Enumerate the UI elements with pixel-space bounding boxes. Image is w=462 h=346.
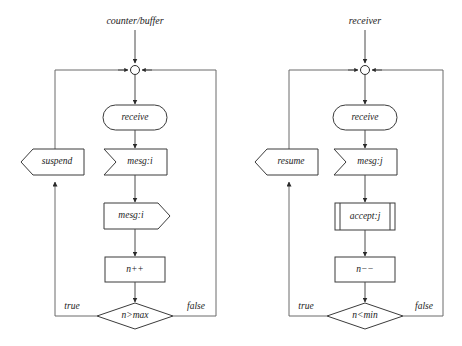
node-mesg-receive-right-label: mesg:j (357, 156, 383, 166)
edge-true-branch-right (289, 182, 327, 316)
node-mesg-send-left-label: mesg:i (118, 210, 144, 220)
edge-true-branch-left (55, 182, 97, 316)
lane-counter-buffer: counter/buffer receive mesg:i (21, 15, 216, 329)
lane-title-receiver: receiver (349, 15, 381, 26)
flowchart-canvas: counter/buffer receive mesg:i (0, 0, 462, 346)
node-suspend-left-label: suspend (42, 156, 73, 166)
flowchart-diagram: counter/buffer receive mesg:i (0, 0, 462, 346)
merge-junction-left (131, 66, 140, 75)
node-decrement-right-label: n−− (356, 264, 374, 274)
node-decision-right-label: n<min (352, 310, 378, 320)
edge-label-false-right: false (415, 301, 433, 311)
node-mesg-receive-left-label: mesg:i (127, 156, 153, 166)
lane-title-counter-buffer: counter/buffer (106, 15, 163, 26)
node-decision-left-label: n>max (122, 310, 150, 320)
node-accept-right-label: accept:j (350, 211, 381, 221)
node-receive-right-label: receive (351, 112, 378, 122)
merge-junction-right (361, 66, 370, 75)
lane-receiver: receiver receive mesg:j (255, 15, 443, 329)
node-resume-right-label: resume (277, 156, 304, 166)
edge-label-true-left: true (64, 301, 79, 311)
edge-label-true-right: true (298, 301, 313, 311)
edge-label-false-left: false (187, 301, 205, 311)
node-increment-left-label: n++ (126, 264, 144, 274)
node-receive-left-label: receive (121, 112, 148, 122)
